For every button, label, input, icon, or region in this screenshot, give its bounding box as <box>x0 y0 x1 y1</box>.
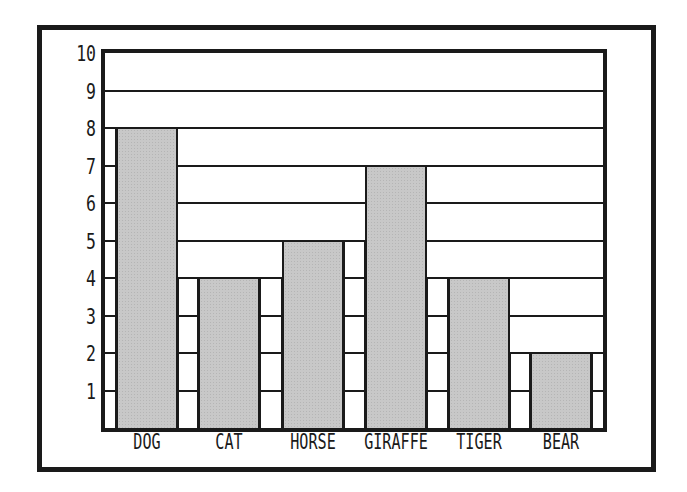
y-tick-label: 6 <box>69 191 96 216</box>
y-tick-label: 4 <box>69 266 96 291</box>
gap-line <box>426 278 428 428</box>
gap-line <box>177 278 179 428</box>
gap-line <box>259 278 261 428</box>
y-tick-label: 10 <box>69 41 96 66</box>
gap-line <box>115 128 117 428</box>
x-tick-label: DOG <box>104 430 190 454</box>
gap-line <box>509 353 511 428</box>
bar-dog <box>116 127 178 428</box>
bar-cat <box>198 277 260 428</box>
gap-line <box>364 241 366 429</box>
x-tick-label: TIGER <box>436 430 522 454</box>
gridline <box>105 90 603 92</box>
y-tick-label: 8 <box>69 116 96 141</box>
bar-horse <box>282 240 344 429</box>
y-tick-label: 7 <box>69 153 96 178</box>
gridline <box>105 277 603 279</box>
gridline <box>105 202 603 204</box>
y-tick-label: 5 <box>69 228 96 253</box>
gridline <box>105 240 603 242</box>
y-tick-label: 3 <box>69 303 96 328</box>
gap-line <box>281 278 283 428</box>
bar-bear <box>530 352 592 428</box>
x-tick-label: BEAR <box>518 430 604 454</box>
plot-area <box>101 49 607 432</box>
gap-line <box>529 353 531 428</box>
bar-giraffe <box>365 165 427 429</box>
y-tick-label: 9 <box>69 78 96 103</box>
gap-line <box>343 241 345 429</box>
x-tick-label: HORSE <box>270 430 356 454</box>
x-tick-label: CAT <box>186 430 272 454</box>
y-tick-label: 2 <box>69 341 96 366</box>
gap-line <box>591 353 593 428</box>
gap-line <box>197 278 199 428</box>
y-tick-label: 1 <box>69 378 96 403</box>
gridline <box>105 165 603 167</box>
bar-tiger <box>448 277 510 428</box>
gridline <box>105 315 603 317</box>
gridline <box>105 127 603 129</box>
x-tick-label: GIRAFFE <box>353 430 439 454</box>
gap-line <box>447 278 449 428</box>
